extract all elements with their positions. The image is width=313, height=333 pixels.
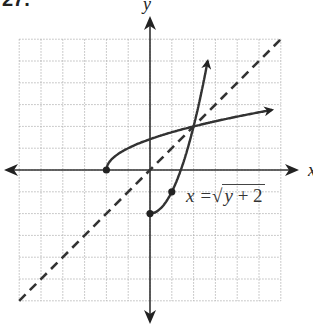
endpoint-dot <box>146 210 153 217</box>
sqrt-symbol: y + 2 <box>222 184 264 207</box>
graph <box>0 0 313 333</box>
equation-label: x =√y + 2 <box>186 184 265 207</box>
point-dot <box>168 188 175 195</box>
endpoint-dot <box>103 166 110 173</box>
